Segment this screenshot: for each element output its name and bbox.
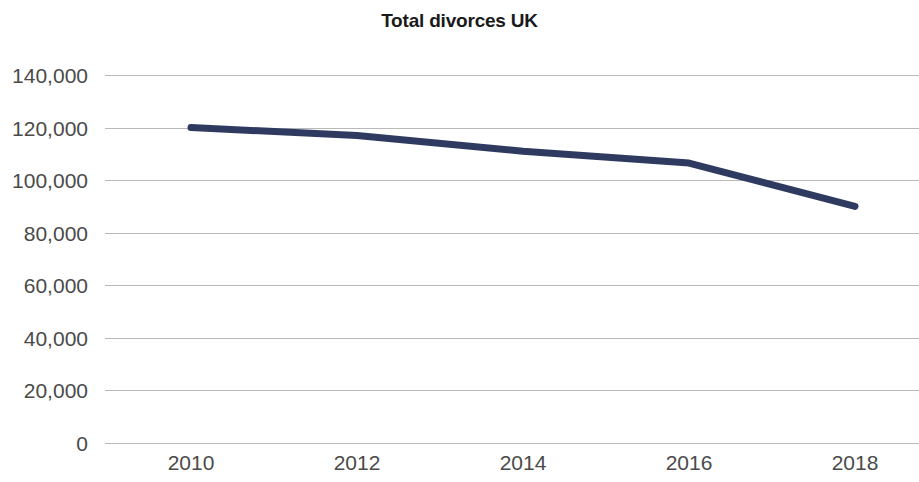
chart-container: Total divorces UK 140,000120,000100,0008… xyxy=(0,0,919,482)
x-tick-label: 2016 xyxy=(666,452,713,473)
x-tick-label: 2010 xyxy=(168,452,215,473)
x-tick-label: 2014 xyxy=(500,452,547,473)
x-tick-label: 2018 xyxy=(832,452,879,473)
x-tick-label: 2012 xyxy=(334,452,381,473)
x-axis: 20102012201420162018 xyxy=(0,0,919,482)
